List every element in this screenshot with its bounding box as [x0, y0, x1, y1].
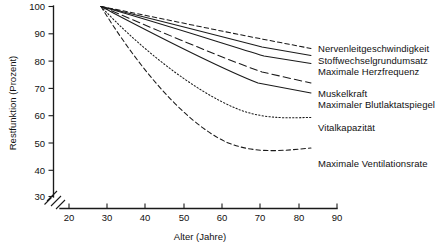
x-tick-label-30: 30 — [102, 212, 113, 223]
curve-muskelkraft — [101, 7, 311, 84]
x-tick-label-40: 40 — [140, 212, 151, 223]
series-label-vitalkapazitaet: Vitalkapazität — [318, 122, 375, 133]
y-axis — [49, 6, 54, 197]
x-tick-label-80: 80 — [294, 212, 305, 223]
curve-stoffwechselgrundumsatz — [101, 7, 311, 56]
y-tick-label-80: 80 — [34, 56, 45, 67]
series-labels: Nervenleitgeschwindigkeit Stoffwechselgr… — [318, 43, 435, 169]
y-tick-label-30: 30 — [34, 191, 45, 202]
x-axis — [60, 204, 337, 209]
series-label-maximaler-blutlaktatspiegel: Maximaler Blutlaktatspiegel — [318, 99, 435, 110]
y-tick-label-50: 50 — [34, 138, 45, 149]
series-label-nervenleitgeschwindigkeit: Nervenleitgeschwindigkeit — [318, 43, 429, 54]
series-label-maximale-herzfrequenz: Maximale Herzfrequenz — [318, 66, 420, 77]
series-curves — [101, 7, 311, 151]
x-tick-label-50: 50 — [179, 212, 190, 223]
y-tick-label-100: 100 — [29, 1, 45, 12]
x-tick-label-70: 70 — [255, 212, 266, 223]
series-label-muskelkraft: Muskelkraft — [318, 88, 367, 99]
curve-nervenleitgeschwindigkeit — [101, 7, 311, 49]
x-tick-label-60: 60 — [217, 212, 228, 223]
series-label-stoffwechselgrundumsatz: Stoffwechselgrundumsatz — [318, 55, 428, 66]
x-axis-title: Alter (Jahre) — [174, 231, 226, 242]
y-tick-label-60: 60 — [34, 110, 45, 121]
y-tick-labels: 100 90 80 70 60 50 40 30 — [29, 1, 45, 202]
y-tick-label-90: 90 — [34, 28, 45, 39]
y-axis-title: Restfunktion (Prozent) — [7, 56, 18, 151]
x-tick-label-20: 20 — [64, 212, 75, 223]
curve-maximale-herzfrequenz — [101, 7, 311, 64]
axis-break-marks — [45, 191, 66, 209]
chart-figure: 100 90 80 70 60 50 40 30 — [0, 0, 438, 252]
y-tick-label-70: 70 — [34, 83, 45, 94]
x-tick-label-90: 90 — [332, 212, 343, 223]
chart-svg: 100 90 80 70 60 50 40 30 — [0, 0, 438, 252]
y-tick-label-40: 40 — [34, 165, 45, 176]
series-label-maximale-ventilationsrate: Maximale Ventilationsrate — [318, 158, 428, 169]
x-tick-labels: 20 30 40 50 60 70 80 90 — [64, 212, 343, 223]
